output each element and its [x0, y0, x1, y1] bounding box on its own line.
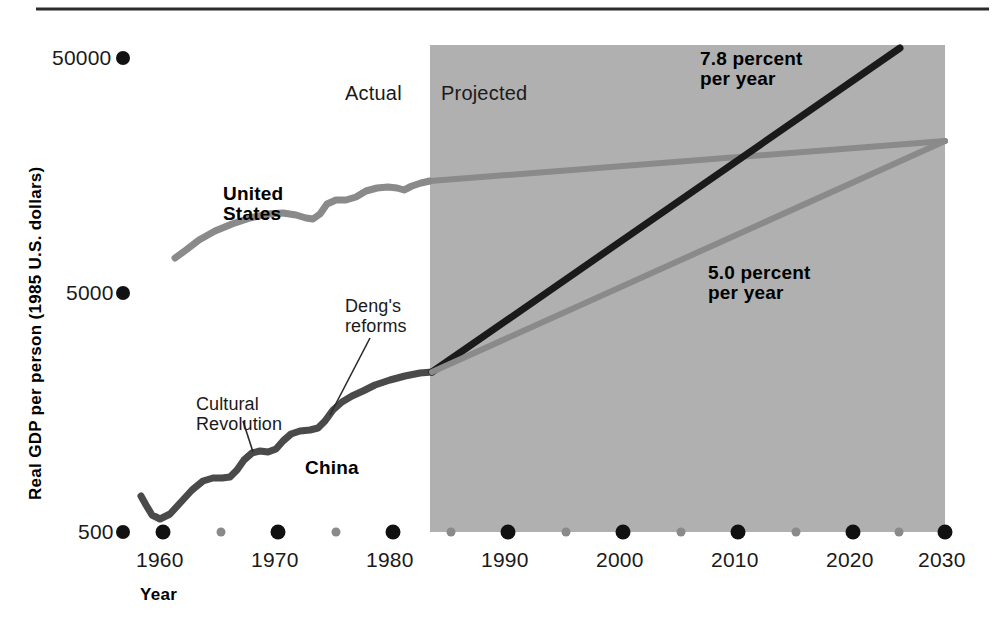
series-label-china: China — [305, 457, 359, 478]
y-tick-label-5000: 5000 — [66, 281, 114, 305]
callout-dengs-reforms-line2: reforms — [345, 316, 407, 336]
region-label-projected: Projected — [441, 82, 527, 104]
x-tick-dot-2030 — [938, 525, 953, 540]
y-tick-label-500: 500 — [78, 520, 114, 544]
chart-figure: Real GDP per person (1985 U.S. dollars) … — [0, 0, 1001, 630]
rate-label-5-0-line2: per year — [708, 282, 784, 303]
x-tick-label-2030: 2030 — [918, 548, 966, 572]
x-tick-label-1990: 1990 — [481, 548, 529, 572]
y-axis-title: Real GDP per person (1985 U.S. dollars) — [26, 166, 46, 500]
x-tick-dot-2015 — [792, 528, 801, 537]
x-tick-dot-2020 — [846, 525, 861, 540]
x-tick-dot-1965 — [217, 528, 226, 537]
x-tick-dot-1995 — [562, 528, 571, 537]
x-tick-dot-2010 — [731, 525, 746, 540]
y-tick-dot-5000 — [116, 286, 130, 300]
x-tick-dot-1980 — [386, 525, 401, 540]
x-tick-label-1960: 1960 — [136, 548, 184, 572]
projected-region-band — [430, 45, 945, 532]
x-tick-label-1980: 1980 — [366, 548, 414, 572]
x-tick-dot-2025 — [895, 528, 904, 537]
callout-leader-dengs-reforms — [330, 338, 370, 415]
callout-dengs-reforms-line1: Deng's — [345, 296, 401, 316]
rate-label-7-8-line1: 7.8 percent — [700, 48, 803, 69]
x-tick-label-2000: 2000 — [596, 548, 644, 572]
rate-label-7-8-line2: per year — [700, 68, 776, 89]
series-label-united-states-line2: States — [223, 203, 281, 224]
x-tick-dot-2000 — [616, 525, 631, 540]
x-tick-label-1970: 1970 — [251, 548, 299, 572]
x-tick-dot-1990 — [501, 525, 516, 540]
x-tick-dot-1970 — [271, 525, 286, 540]
x-tick-dot-1960 — [156, 525, 171, 540]
x-tick-dot-1975 — [332, 528, 341, 537]
series-label-united-states-line1: United — [223, 183, 283, 204]
series-line-united-states — [175, 181, 430, 258]
series-line-china — [141, 372, 432, 519]
rate-label-5-0-line1: 5.0 percent — [708, 262, 811, 283]
region-label-actual: Actual — [345, 82, 402, 104]
x-tick-dot-2005 — [677, 528, 686, 537]
callout-cultural-revolution-line2: Revolution — [196, 414, 282, 434]
y-tick-label-50000: 50000 — [52, 46, 111, 70]
y-tick-dot-500 — [116, 525, 130, 539]
x-tick-label-2010: 2010 — [711, 548, 759, 572]
x-axis-title: Year — [140, 585, 177, 604]
y-tick-dot-50000 — [116, 51, 130, 65]
x-tick-label-2020: 2020 — [826, 548, 874, 572]
callout-cultural-revolution-line1: Cultural — [196, 394, 259, 414]
x-tick-dot-1985 — [447, 528, 456, 537]
